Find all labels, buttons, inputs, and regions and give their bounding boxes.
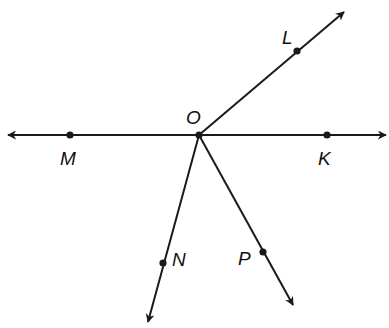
point-L-dot: [293, 47, 300, 54]
label-K: K: [318, 148, 332, 169]
point-O-dot: [195, 131, 202, 138]
label-L: L: [282, 27, 293, 48]
label-O: O: [186, 107, 201, 128]
point-K-dot: [323, 131, 330, 138]
points: [66, 47, 330, 266]
ray-OL: [199, 12, 344, 135]
ray-ON: [148, 135, 199, 322]
label-P: P: [238, 248, 251, 269]
label-M: M: [60, 148, 76, 169]
ray-OP: [199, 135, 293, 305]
label-N: N: [172, 249, 186, 270]
point-N-dot: [159, 259, 166, 266]
diagram-canvas: OLMKNP: [0, 0, 389, 328]
point-P-dot: [259, 248, 266, 255]
point-M-dot: [66, 131, 73, 138]
geometry-diagram: OLMKNP: [0, 0, 389, 328]
